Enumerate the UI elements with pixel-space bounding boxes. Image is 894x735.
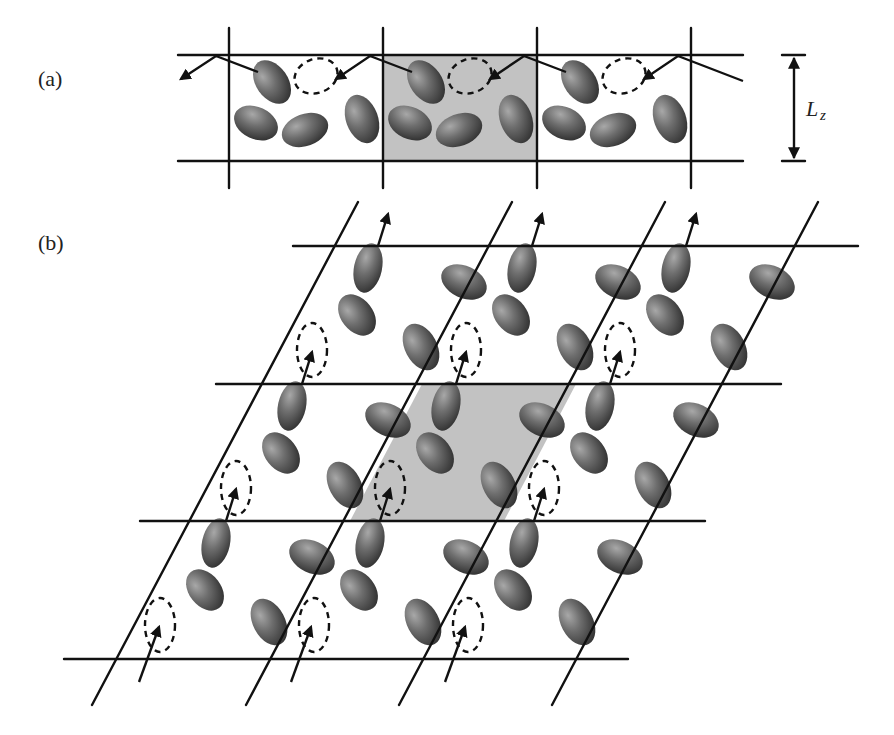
arrow-icon [181,56,258,79]
arrow-icon [532,214,542,246]
arrow-icon [302,352,312,384]
lz-label: L [805,96,818,121]
image-cell [453,516,649,652]
figure-canvas: (a) L z [0,0,894,735]
arrow-icon [226,489,236,521]
lz-subscript: z [819,107,826,123]
arrow-icon [644,56,743,81]
arrow-icon [686,214,696,246]
arrow-icon [456,352,466,384]
arrow-icon [378,214,388,246]
panel-b-label: (b) [38,230,64,255]
arrow-icon [610,352,620,384]
panel-b: (b) [38,202,858,705]
image-cell [299,516,495,652]
slanted-boundary-line [92,202,358,705]
panel-a-label: (a) [38,66,62,91]
lz-dimension: L z [782,55,826,161]
arrow-icon [139,627,159,682]
image-cell-left [228,53,385,154]
arrow-icon [534,489,544,521]
image-cell-right [536,53,693,154]
panel-a: (a) L z [38,28,826,188]
